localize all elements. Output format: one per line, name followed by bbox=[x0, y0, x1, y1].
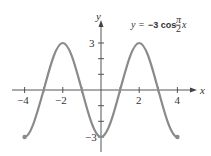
svg-text:−3 cos: −3 cos bbox=[148, 20, 176, 30]
x-axis-arrow-icon bbox=[190, 88, 197, 93]
y-axis-label: y bbox=[95, 10, 101, 22]
endpoint-left bbox=[22, 135, 26, 139]
x-axis-label: x bbox=[199, 84, 205, 96]
x-tick-label-neg2: −2 bbox=[55, 94, 67, 106]
x-tick-label-2: 2 bbox=[136, 94, 142, 106]
cosine-graph: x y −4 −2 2 4 3 −3 y = −3 cos π 2 x bbox=[0, 0, 211, 156]
x-tick-label-4: 4 bbox=[175, 94, 181, 106]
svg-text:2: 2 bbox=[176, 23, 181, 34]
x-tick-label-neg4: −4 bbox=[17, 94, 29, 106]
svg-text:y =: y = bbox=[130, 19, 145, 30]
y-tick-label-3: 3 bbox=[89, 37, 95, 49]
formula-label: y = −3 cos π 2 x bbox=[130, 14, 187, 34]
svg-text:x: x bbox=[181, 19, 187, 30]
endpoint-right bbox=[175, 135, 179, 139]
